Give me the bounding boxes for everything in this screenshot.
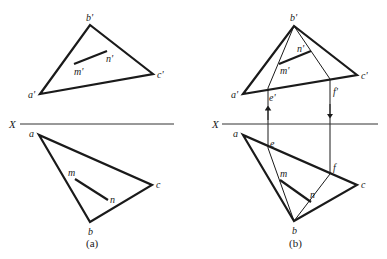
caption-b: (b) [289, 237, 302, 250]
axis-label-x: X [211, 118, 220, 130]
label-a: a [29, 128, 34, 139]
label-b: b [292, 225, 297, 236]
segment-mn-plan [75, 179, 108, 200]
label-a: a [233, 128, 238, 139]
triangle-abc-elevation [243, 26, 357, 94]
label-m: m [280, 168, 287, 179]
label-e: e [270, 138, 275, 149]
axis-label-x: X [8, 118, 17, 130]
label-n-prime: n' [106, 53, 114, 64]
segment-mn-plan [280, 180, 311, 202]
triangle-abc-plan [39, 135, 152, 222]
label-a-prime: a' [28, 89, 36, 100]
label-m-prime: m' [280, 65, 290, 76]
label-e-prime: e' [269, 92, 276, 103]
label-c: c [361, 179, 366, 190]
figure-a: b' a' c' m' n' X a b c m n (a) [8, 12, 174, 250]
label-a-prime: a' [231, 89, 239, 100]
label-b-prime: b' [86, 12, 94, 23]
label-c-prime: c' [157, 69, 164, 80]
orthographic-projection-diagram: b' a' c' m' n' X a b c m n (a) b' a' c' … [0, 0, 387, 259]
figure-b: b' a' c' m' n' e' f' X a b c m n e f (b) [211, 12, 378, 250]
label-n-prime: n' [297, 43, 305, 54]
label-n: n [110, 194, 115, 205]
label-n: n [310, 189, 315, 200]
triangle-abc-elevation [40, 25, 153, 94]
label-b: b [88, 226, 93, 237]
triangle-abc-plan [243, 135, 357, 221]
segment-mn-elevation [279, 51, 311, 64]
label-f-prime: f' [333, 86, 339, 97]
label-b-prime: b' [290, 12, 298, 23]
segment-mn-elevation [74, 51, 107, 64]
label-c-prime: c' [361, 70, 368, 81]
label-c: c [156, 179, 161, 190]
label-m: m [68, 167, 75, 178]
label-m-prime: m' [74, 66, 84, 77]
label-f: f [333, 162, 337, 173]
caption-a: (a) [86, 237, 99, 250]
